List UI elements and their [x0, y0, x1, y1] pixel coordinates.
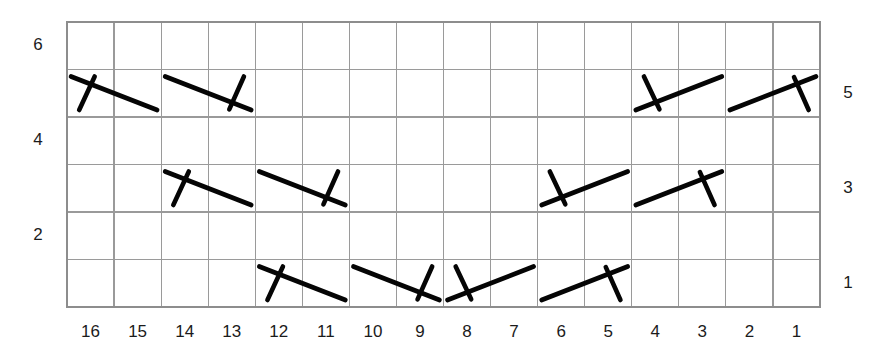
y-axis-left-tick-label: 4 — [33, 130, 42, 149]
figure-canvas: 16151413121110987654321 642 531 — [0, 0, 877, 355]
x-axis-tick-label: 3 — [698, 322, 707, 341]
y-axis-right-tick-label: 1 — [843, 273, 852, 292]
stem-and-leaf-symbol-grid-figure: 16151413121110987654321 642 531 — [0, 0, 877, 355]
y-axis-left-tick-label: 6 — [33, 35, 42, 54]
y-axis-right-tick-label: 3 — [843, 178, 852, 197]
x-axis-tick-label: 7 — [509, 322, 518, 341]
x-axis-tick-label: 1 — [792, 322, 801, 341]
x-axis-tick-labels: 16151413121110987654321 — [81, 322, 801, 341]
x-axis-tick-label: 8 — [462, 322, 471, 341]
x-axis-tick-label: 11 — [317, 322, 335, 341]
x-axis-tick-label: 16 — [81, 322, 100, 341]
x-axis-tick-label: 14 — [175, 322, 194, 341]
x-axis-tick-label: 2 — [745, 322, 754, 341]
x-axis-tick-label: 5 — [603, 322, 612, 341]
x-axis-tick-label: 13 — [222, 322, 241, 341]
x-axis-tick-label: 9 — [415, 322, 424, 341]
y-axis-right-tick-label: 5 — [843, 83, 852, 102]
x-axis-tick-label: 6 — [556, 322, 565, 341]
x-axis-tick-label: 10 — [363, 322, 382, 341]
y-axis-left-tick-label: 2 — [33, 225, 42, 244]
x-axis-tick-label: 12 — [269, 322, 288, 341]
x-axis-tick-label: 4 — [651, 322, 660, 341]
y-axis-left-tick-labels: 642 — [33, 35, 42, 244]
x-axis-tick-label: 15 — [128, 322, 147, 341]
grid-lines — [67, 22, 820, 307]
y-axis-right-tick-labels: 531 — [843, 83, 852, 292]
